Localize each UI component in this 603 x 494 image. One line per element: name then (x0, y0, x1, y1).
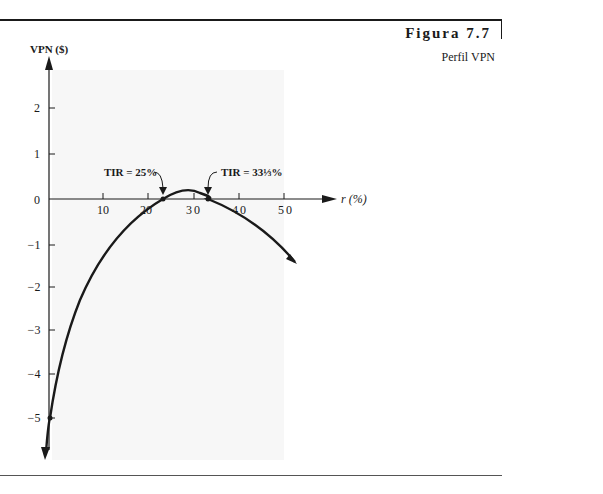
npv-curve (41, 190, 297, 460)
y-tick-0: 0 (34, 193, 40, 207)
y-axis-arrow-icon (45, 56, 53, 70)
annotation-irr-25: TIR = 25% (104, 166, 157, 178)
x-tick-30: 30 (186, 203, 202, 217)
y-tick-2: 2 (34, 101, 40, 115)
npv-at-zero-point (48, 416, 53, 421)
irr-point-33 (206, 197, 211, 202)
curve-start-arrow-icon (41, 447, 50, 460)
x-tick-10: 10 (97, 203, 109, 217)
y-axis: 2 1 0 −1 −2 −3 −4 −5 (28, 56, 55, 450)
irr-point-25 (161, 197, 166, 202)
y-tick-neg5: −5 (28, 411, 41, 425)
y-tick-neg2: −2 (28, 280, 41, 294)
y-tick-neg4: −4 (28, 367, 41, 381)
annotation-irr-33: TIR = 33⅓% (221, 166, 283, 178)
x-tick-50: 50 (278, 203, 294, 217)
arrow-down-icon (159, 187, 167, 195)
y-tick-neg1: −1 (28, 238, 41, 252)
x-axis-arrow-icon (322, 195, 337, 203)
y-tick-1: 1 (34, 147, 40, 161)
curve-end-arrow-icon (286, 254, 297, 264)
npv-chart: 2 1 0 −1 −2 −3 −4 −5 10 20 30 40 50 r (%… (0, 0, 603, 494)
x-axis-label: r (%) (341, 192, 367, 206)
y-tick-neg3: −3 (28, 323, 41, 337)
